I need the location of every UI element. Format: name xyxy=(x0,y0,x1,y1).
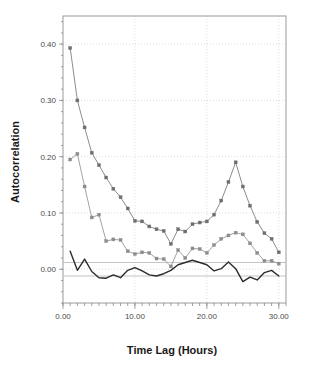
data-point-marker xyxy=(126,207,129,210)
data-point-marker xyxy=(249,204,252,207)
data-point-marker xyxy=(256,220,259,223)
data-point-marker xyxy=(234,231,237,234)
x-tick-label: 30.00 xyxy=(269,312,290,321)
data-point-marker xyxy=(191,247,194,250)
data-point-marker xyxy=(198,247,201,250)
chart-container: Time Lag (Hours) Autocorrelation 0.000.1… xyxy=(0,0,310,373)
autocorrelation-chart: Time Lag (Hours) Autocorrelation 0.000.1… xyxy=(0,0,310,373)
y-tick-label: 0.00 xyxy=(40,265,56,274)
x-tick-label: 20.00 xyxy=(197,312,218,321)
data-point-marker xyxy=(90,216,93,219)
y-tick-label: 0.20 xyxy=(40,153,56,162)
data-point-marker xyxy=(184,256,187,259)
data-point-marker xyxy=(177,228,180,231)
data-point-marker xyxy=(277,251,280,254)
data-point-marker xyxy=(141,220,144,223)
data-point-marker xyxy=(169,265,172,268)
data-point-marker xyxy=(133,253,136,256)
data-point-marker xyxy=(227,234,230,237)
data-point-marker xyxy=(241,185,244,188)
data-point-marker xyxy=(105,240,108,243)
data-point-marker xyxy=(220,237,223,240)
data-point-marker xyxy=(234,161,237,164)
data-point-marker xyxy=(90,151,93,154)
data-point-marker xyxy=(249,242,252,245)
data-point-marker xyxy=(277,262,280,265)
data-point-marker xyxy=(205,220,208,223)
data-point-marker xyxy=(220,199,223,202)
data-point-marker xyxy=(155,257,158,260)
data-point-marker xyxy=(83,185,86,188)
data-point-marker xyxy=(227,181,230,184)
x-tick-label: 0.00 xyxy=(55,312,71,321)
data-point-marker xyxy=(133,219,136,222)
data-point-marker xyxy=(263,259,266,262)
grid-layer xyxy=(63,16,286,303)
plot-frame xyxy=(63,16,286,303)
data-point-marker xyxy=(141,251,144,254)
data-point-marker xyxy=(270,259,273,262)
data-point-marker xyxy=(112,238,115,241)
y-axis-title: Autocorrelation xyxy=(9,121,21,203)
data-point-marker xyxy=(69,47,72,50)
data-point-marker xyxy=(76,152,79,155)
data-point-marker xyxy=(263,232,266,235)
y-tick-label: 0.30 xyxy=(40,96,56,105)
frame-layer xyxy=(63,16,286,303)
data-point-marker xyxy=(97,213,100,216)
data-point-marker xyxy=(119,238,122,241)
x-axis-title: Time Lag (Hours) xyxy=(127,344,218,356)
data-point-marker xyxy=(105,176,108,179)
y-tick-label: 0.40 xyxy=(40,40,56,49)
data-point-marker xyxy=(126,250,129,253)
series-line-series-lower xyxy=(70,251,279,281)
data-point-marker xyxy=(69,158,72,161)
data-point-marker xyxy=(119,196,122,199)
y-tick-label: 0.10 xyxy=(40,209,56,218)
data-point-marker xyxy=(241,233,244,236)
data-point-marker xyxy=(155,228,158,231)
data-point-marker xyxy=(191,223,194,226)
data-point-marker xyxy=(177,249,180,252)
series-line-series-upper xyxy=(70,48,279,252)
data-series xyxy=(69,47,281,254)
data-point-marker xyxy=(97,164,100,167)
data-point-marker xyxy=(213,244,216,247)
data-point-marker xyxy=(83,126,86,129)
data-point-marker xyxy=(169,242,172,245)
data-point-marker xyxy=(256,251,259,254)
data-point-marker xyxy=(148,225,151,228)
series-line-series-middle xyxy=(70,154,279,267)
x-tick-label: 10.00 xyxy=(125,312,146,321)
data-point-marker xyxy=(162,258,165,261)
data-series xyxy=(70,251,279,281)
data-point-marker xyxy=(162,229,165,232)
data-point-marker xyxy=(205,251,208,254)
data-series xyxy=(69,152,281,268)
data-point-marker xyxy=(198,221,201,224)
data-point-marker xyxy=(76,99,79,102)
data-point-marker xyxy=(184,230,187,233)
data-point-marker xyxy=(112,187,115,190)
data-point-marker xyxy=(148,251,151,254)
data-point-marker xyxy=(270,237,273,240)
data-point-marker xyxy=(213,213,216,216)
series-layer xyxy=(69,47,281,282)
